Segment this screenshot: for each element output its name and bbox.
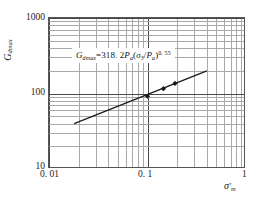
equation-coefficient: 318. 2 <box>101 50 124 60</box>
equation-exponent: 0. 55 <box>158 50 171 56</box>
y-tick-label-100: 100 <box>31 87 45 97</box>
x-axis-title: σ′m <box>224 180 236 192</box>
data-point-marker <box>172 81 177 86</box>
data-layer <box>49 18 245 168</box>
y-tick-label-1000: 1000 <box>26 12 45 22</box>
equation-annotation: Gdmax=318. 2Pa(σ3/Pa)0. 55 <box>72 48 175 63</box>
equation-lhs-subscript: dmax <box>83 55 96 61</box>
equation-lhs-symbol: G <box>76 50 83 60</box>
plot-area <box>48 17 245 168</box>
x-tick-label-0-01: 0. 01 <box>40 169 59 179</box>
data-point-group <box>145 81 178 99</box>
x-axis-title-subscript: m <box>231 185 236 192</box>
fit-line <box>74 71 207 124</box>
x-tick-label-1: 1 <box>242 169 247 179</box>
chart-figure: Gdmax 1000 100 10 Gdmax=318. 2Pa(σ3/Pa)0… <box>0 0 265 202</box>
y-tick-label-group: 1000 100 10 <box>0 0 45 202</box>
x-tick-label-0-1: 0. 1 <box>138 169 152 179</box>
